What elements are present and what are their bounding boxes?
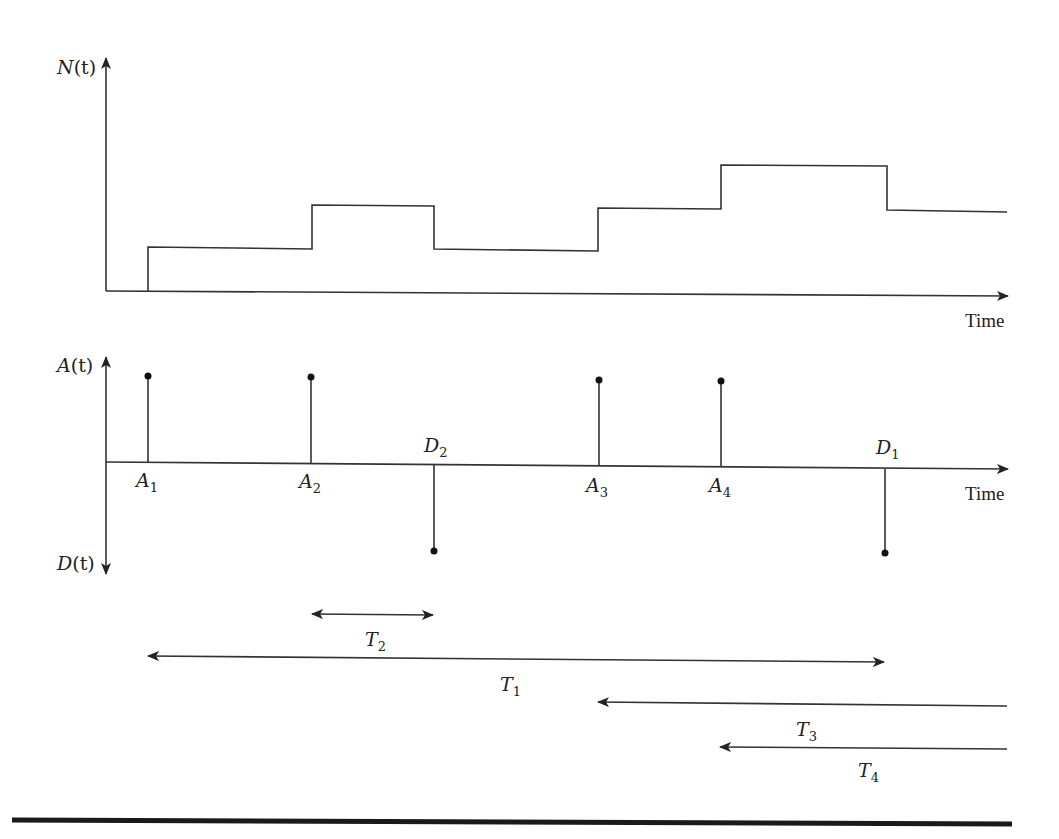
ad-time-label: Time: [965, 483, 1004, 504]
svg-text:D1: D1: [875, 436, 900, 462]
departure-d1: D1: [875, 436, 900, 557]
arrival-a2: A2: [297, 374, 321, 497]
svg-text:T2: T2: [365, 628, 386, 654]
arrival-a1: A1: [134, 373, 158, 496]
n-step-function: [148, 165, 1007, 292]
interval-t1: T1: [148, 656, 884, 699]
ad-time-axis: [106, 462, 1008, 469]
svg-text:T3: T3: [796, 718, 817, 744]
svg-text:D2: D2: [423, 434, 448, 460]
arrival-dot-icon: [596, 377, 603, 384]
interval-t4: T4: [720, 747, 1007, 785]
a-axis-label: A(t): [55, 354, 93, 376]
svg-text:A2: A2: [297, 470, 321, 496]
svg-text:A3: A3: [584, 474, 608, 500]
n-axis-label: N(t): [56, 56, 96, 78]
interval-t3: T3: [598, 702, 1007, 744]
d-axis-label: D(t): [56, 552, 95, 574]
number-in-system-panel: N(t) Time: [56, 56, 1008, 331]
departure-dot-icon: [431, 548, 438, 555]
n-time-label: Time: [965, 310, 1004, 331]
arrival-dot-icon: [718, 378, 725, 385]
queue-timeline-diagram: N(t) Time A(t) D(t) Time A1 A2: [0, 0, 1059, 839]
departure-d2: D2: [423, 434, 448, 555]
svg-text:T1: T1: [500, 673, 521, 699]
arrival-a4: A4: [707, 378, 731, 501]
arrivals-departures-panel: A(t) D(t) Time A1 A2 A3 A4: [55, 354, 1008, 574]
n-time-axis: [106, 291, 1008, 296]
interval-t2: T2: [312, 614, 433, 654]
svg-text:A1: A1: [134, 469, 158, 495]
svg-text:A4: A4: [707, 474, 731, 500]
interval-arrows: T2 T1 T3 T4: [148, 614, 1007, 785]
arrival-dot-icon: [308, 374, 315, 381]
arrival-dot-icon: [145, 373, 152, 380]
svg-text:T4: T4: [858, 759, 879, 785]
arrival-a3: A3: [584, 377, 608, 501]
departure-dot-icon: [882, 550, 889, 557]
bottom-rule-divider: [12, 820, 1012, 824]
